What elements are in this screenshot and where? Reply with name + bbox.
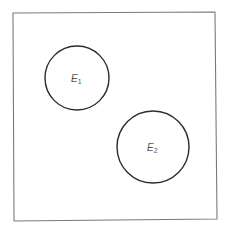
event-e2-label: E2 — [147, 142, 158, 154]
sample-space-rectangle — [13, 12, 217, 221]
event-e2: E2 — [117, 111, 189, 183]
event-e1-label: E1 — [71, 73, 82, 85]
venn-diagram: E1 E2 — [0, 0, 227, 230]
event-e1: E1 — [45, 46, 109, 110]
